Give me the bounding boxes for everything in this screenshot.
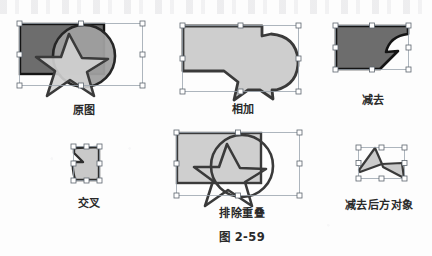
shape-rectangle-outline xyxy=(177,133,261,183)
unite-artwork xyxy=(176,20,310,104)
panel-minus-front xyxy=(330,22,416,80)
caption-intersect: 交叉 xyxy=(46,198,132,209)
intersect-artwork xyxy=(66,142,112,188)
shape-star-remnant-right xyxy=(382,163,404,178)
panel-intersect xyxy=(66,142,112,188)
minus-front-artwork xyxy=(330,22,416,80)
panel-exclude xyxy=(172,128,312,214)
shape-intersection xyxy=(73,147,99,180)
shape-star-remnant-left xyxy=(359,148,382,172)
caption-minus-back: 减去后方对象 xyxy=(326,200,432,211)
panel-unite xyxy=(176,20,310,104)
caption-original: 原图 xyxy=(14,105,154,116)
figure-caption: 图 2-59 xyxy=(172,232,312,244)
caption-exclude: 排除重叠 xyxy=(172,208,312,219)
caption-minus-front: 减去 xyxy=(330,95,416,106)
minus-back-artwork xyxy=(352,142,410,186)
panel-original xyxy=(14,20,154,102)
shape-subtracted xyxy=(336,26,408,69)
panel-minus-back xyxy=(352,142,410,186)
caption-unite: 相加 xyxy=(176,104,310,115)
exclude-artwork xyxy=(172,128,312,214)
scan-noise-band xyxy=(0,0,432,14)
original-artwork xyxy=(14,20,154,102)
